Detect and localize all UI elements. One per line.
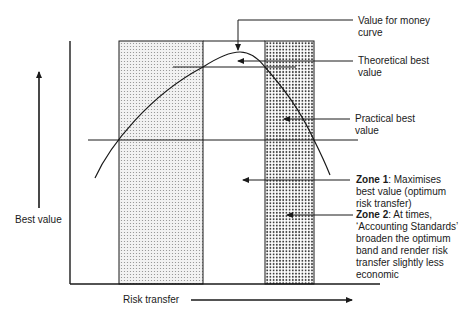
theoretical-best-value-label: Theoretical best value [358, 55, 450, 79]
x-axis-label: Risk transfer [123, 294, 179, 306]
y-axis-label: Best value [15, 214, 62, 226]
zone-2-label: Zone 2: At times, ‘Accounting Standards’… [356, 209, 464, 281]
value-for-money-curve-label: Value for money curve [358, 15, 448, 39]
zone-1-label: Zone 1: Maximises best value (optimum ri… [356, 174, 456, 210]
zone-1-title: Zone 1 [356, 174, 388, 185]
practical-best-value-label: Practical best value [355, 113, 435, 137]
zone-2-band [265, 41, 314, 284]
zone-1-band [119, 41, 203, 284]
zone-2-title: Zone 2 [356, 209, 388, 220]
